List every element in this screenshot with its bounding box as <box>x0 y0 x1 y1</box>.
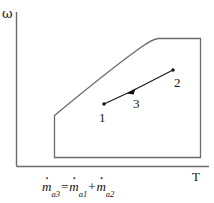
state-point-1-marker <box>102 102 105 105</box>
chart-drawing-canvas <box>0 0 214 203</box>
mdot-a2-subscript: a2 <box>106 189 115 199</box>
x-axis-label-temperature: T <box>192 170 200 183</box>
dry-air-mass-balance-equation: ma3=ma1+ma2 <box>42 180 114 196</box>
state-point-2-marker <box>171 68 174 71</box>
mdot-a1-subscript: a1 <box>79 189 88 199</box>
state-point-1-label: 1 <box>99 111 106 124</box>
mdot-a3-subscript: a3 <box>51 189 60 199</box>
psychrometric-chart-figure: ω T 1 3 2 ma3=ma1+ma2 <box>0 0 214 203</box>
psychrometric-chart-boundary <box>55 39 201 158</box>
state-point-3-marker <box>127 89 136 95</box>
state-point-2-label: 2 <box>174 76 181 89</box>
mdot-a2-symbol: m <box>96 180 105 193</box>
plus-sign: + <box>87 179 96 194</box>
y-axis-label-omega: ω <box>2 7 13 20</box>
state-point-3-label: 3 <box>133 97 140 110</box>
equals-sign: = <box>60 179 69 194</box>
mdot-a3-symbol: m <box>42 180 51 193</box>
mdot-a1-symbol: m <box>69 180 78 193</box>
